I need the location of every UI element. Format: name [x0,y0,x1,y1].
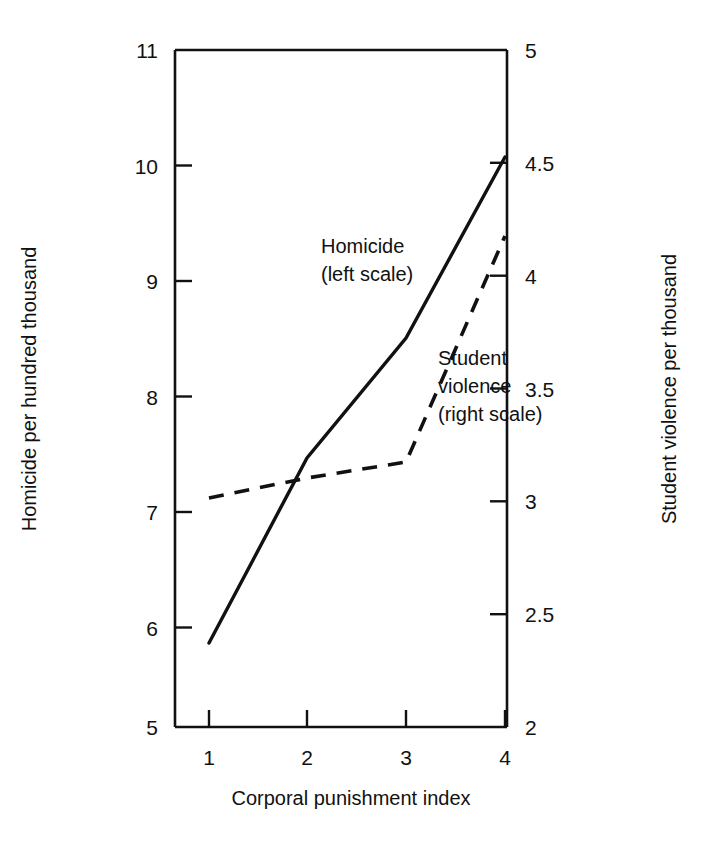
y-right-label-2.5: 2.5 [525,603,554,626]
y-left-ticks [175,166,192,628]
chart-svg: 11 10 9 8 7 6 5 5 4.5 4 3.5 3 2.5 2 1 2 … [0,0,703,845]
y-left-label-11: 11 [136,39,158,62]
y-left-label-6: 6 [146,617,158,640]
x-label-1: 1 [203,746,215,769]
y-right-tick-labels: 5 4.5 4 3.5 3 2.5 2 [525,39,554,739]
y-right-label-3.5: 3.5 [525,378,554,401]
chart-figure: 11 10 9 8 7 6 5 5 4.5 4 3.5 3 2.5 2 1 2 … [0,0,703,845]
y-left-axis-title: Homicide per hundred thousand [18,247,40,532]
y-right-label-4: 4 [525,265,537,288]
y-left-label-10: 10 [135,155,158,178]
x-label-2: 2 [301,746,313,769]
x-label-4: 4 [499,746,511,769]
x-ticks [209,710,505,727]
y-right-label-4.5: 4.5 [525,152,554,175]
y-right-label-3: 3 [525,490,537,513]
x-tick-labels: 1 2 3 4 [203,746,511,769]
annotation-student-line3: (right scale) [438,403,542,425]
y-left-label-5: 5 [146,716,158,739]
annotation-homicide: Homicide (left scale) [321,235,413,285]
annotation-homicide-line2: (left scale) [321,263,413,285]
y-right-label-5: 5 [525,39,537,62]
y-right-label-2: 2 [525,716,537,739]
x-label-3: 3 [400,746,412,769]
x-axis-title: Corporal punishment index [231,787,470,809]
y-left-label-9: 9 [146,270,158,293]
series-homicide-line [209,157,505,643]
y-left-tick-labels: 11 10 9 8 7 6 5 [135,39,158,739]
annotation-homicide-line1: Homicide [321,235,404,257]
y-right-axis-title: Student violence per thousand [658,254,680,524]
annotation-student-line2: violence [438,375,511,397]
y-left-label-8: 8 [146,386,158,409]
annotation-student-line1: Student [438,347,507,369]
y-left-label-7: 7 [146,501,158,524]
